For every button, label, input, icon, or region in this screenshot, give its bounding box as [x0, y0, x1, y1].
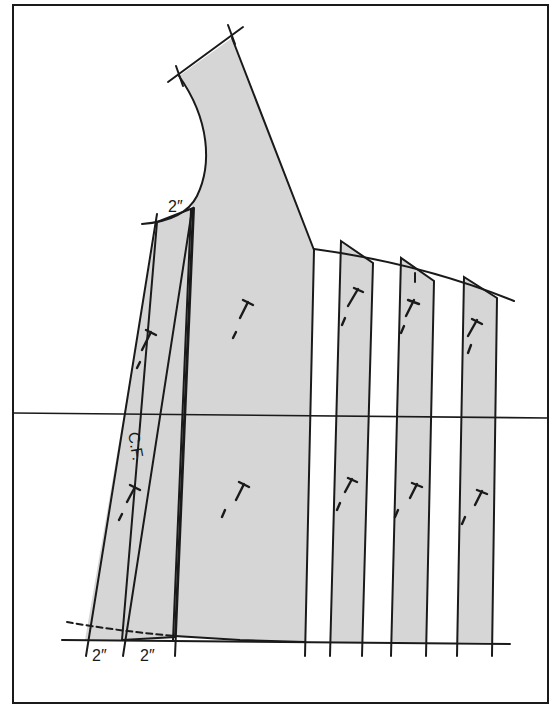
neck-measure-label: 2″: [168, 198, 183, 215]
main-bodice-panel: [175, 38, 314, 642]
pattern-diagram: 2″ C.F. 2″ 2″: [0, 0, 555, 718]
bottom-measure-right-label: 2″: [140, 647, 155, 664]
bottom-measure-left-label: 2″: [92, 647, 107, 664]
